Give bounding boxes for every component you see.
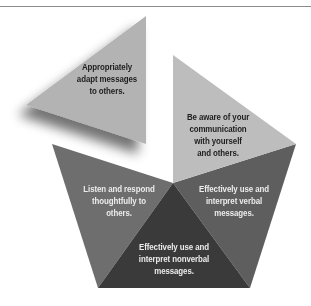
label-line: messages. <box>188 207 280 219</box>
label-line: to others. <box>69 85 144 97</box>
label-listen: Listen and respond thoughtfully to other… <box>73 183 165 219</box>
label-nonverbal: Effectively use and interpret nonverbal … <box>128 241 220 277</box>
label-line: others. <box>73 207 165 219</box>
label-line: Effectively use and <box>128 241 220 253</box>
label-line: interpret verbal <box>188 195 280 207</box>
label-line: Effectively use and <box>188 183 280 195</box>
label-adapt: Appropriately adapt messages to others. <box>69 61 144 97</box>
label-line: and others. <box>178 147 257 159</box>
label-line: Listen and respond <box>73 183 165 195</box>
label-verbal: Effectively use and interpret verbal mes… <box>188 183 280 219</box>
label-line: Appropriately <box>69 61 144 73</box>
label-aware: Be aware of your communication with your… <box>178 111 257 159</box>
label-line: adapt messages <box>69 73 144 85</box>
label-line: interpret nonverbal <box>128 253 220 265</box>
label-line: messages. <box>128 265 220 277</box>
label-line: Be aware of your <box>178 111 257 123</box>
label-line: communication <box>178 123 257 135</box>
label-line: with yourself <box>178 135 257 147</box>
label-line: thoughtfully to <box>73 195 165 207</box>
